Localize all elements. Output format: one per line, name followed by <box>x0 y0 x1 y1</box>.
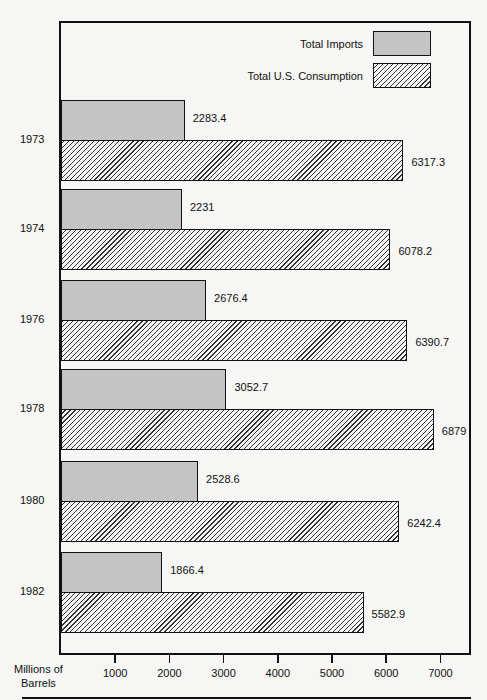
x-tick-label: 1000 <box>103 667 127 679</box>
category-label: 1982 <box>20 585 44 597</box>
value-label-imports: 2676.4 <box>214 292 248 304</box>
value-label-imports: 2283.4 <box>193 112 227 124</box>
x-tick <box>440 653 442 663</box>
x-tick <box>385 653 387 663</box>
bar-imports <box>61 461 198 502</box>
value-label-consumption: 6242.4 <box>407 517 441 529</box>
value-label-consumption: 5582.9 <box>372 608 406 620</box>
x-tick-label: 4000 <box>266 667 290 679</box>
x-tick-label: 5000 <box>320 667 344 679</box>
bar-imports <box>61 280 206 321</box>
legend-label-imports: Total Imports <box>300 38 363 50</box>
x-tick <box>331 653 333 663</box>
value-label-imports: 2528.6 <box>206 473 240 485</box>
axis-unit-line1: Millions of <box>14 662 63 676</box>
x-tick <box>223 653 225 663</box>
value-label-consumption: 6317.3 <box>411 156 445 168</box>
x-tick <box>277 653 279 663</box>
category-label: 1974 <box>20 222 44 234</box>
axis-unit-label: Millions of Barrels <box>14 662 63 690</box>
value-label-consumption: 6390.7 <box>415 336 449 348</box>
bar-consumption <box>61 409 434 450</box>
x-tick <box>169 653 171 663</box>
bottom-rule <box>22 697 471 699</box>
x-tick-label: 2000 <box>157 667 181 679</box>
bar-consumption <box>61 320 407 361</box>
value-label-imports: 2231 <box>190 201 214 213</box>
bar-consumption <box>61 140 403 181</box>
bar-imports <box>61 189 182 230</box>
category-label: 1980 <box>20 494 44 506</box>
legend-swatch-imports <box>373 31 431 56</box>
bar-consumption <box>61 501 399 542</box>
x-tick <box>114 653 116 663</box>
value-label-consumption: 6078.2 <box>398 245 432 257</box>
category-label: 1973 <box>20 133 44 145</box>
legend-item-consumption: Total U.S. Consumption <box>247 63 431 88</box>
bar-imports <box>61 369 226 410</box>
value-label-imports: 1866.4 <box>170 564 204 576</box>
bar-imports <box>61 100 185 141</box>
category-label: 1978 <box>20 402 44 414</box>
bar-imports <box>61 552 162 593</box>
x-tick-label: 7000 <box>428 667 452 679</box>
legend-swatch-consumption <box>373 63 431 88</box>
axis-unit-line2: Barrels <box>14 676 63 690</box>
category-label: 1976 <box>20 313 44 325</box>
x-tick-label: 6000 <box>374 667 398 679</box>
bar-consumption <box>61 592 364 633</box>
value-label-imports: 3052.7 <box>234 381 268 393</box>
value-label-consumption: 6879 <box>442 425 466 437</box>
x-tick-label: 3000 <box>211 667 235 679</box>
legend-item-imports: Total Imports <box>300 31 431 56</box>
legend-label-consumption: Total U.S. Consumption <box>247 70 363 82</box>
bar-consumption <box>61 229 390 270</box>
